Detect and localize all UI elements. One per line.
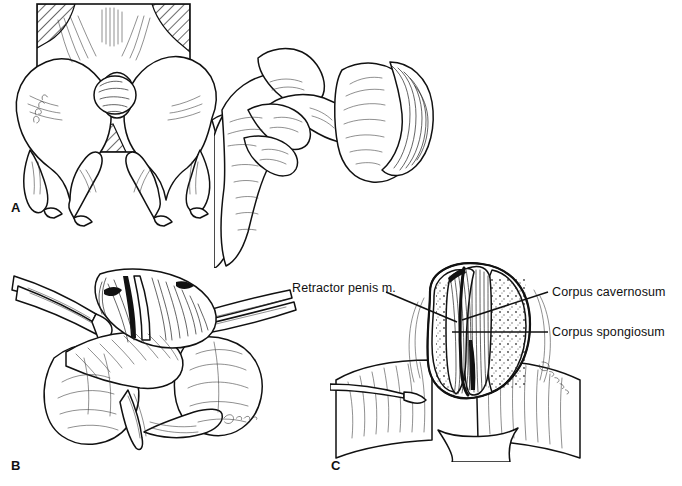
label-corpus-spongiosum: Corpus spongiosum [552, 325, 665, 339]
panel-letter-a: A [11, 200, 21, 215]
label-corpus-cavernosum: Corpus cavernosum [552, 285, 666, 299]
penile-cross-section [427, 263, 530, 398]
panel-a-hand [214, 18, 454, 268]
panel-letter-b: B [11, 458, 21, 473]
hand-artwork [214, 18, 454, 268]
panel-b-artwork [0, 262, 300, 462]
panel-b [0, 262, 300, 462]
label-retractor-penis-m: Retractor penis m. [292, 281, 396, 295]
figure-canvas: A [0, 0, 682, 486]
glans-penis [335, 62, 433, 182]
panel-letter-c: C [331, 458, 341, 473]
exposed-penis-and-testes [44, 269, 262, 449]
